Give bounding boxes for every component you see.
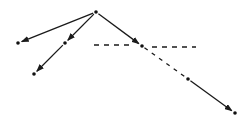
edge-root-to-right [98,14,138,44]
edge-right-to-right-child [144,48,184,77]
node-mid-child [32,72,36,76]
edges-group [22,13,232,111]
node-mid [63,41,67,45]
node-end [233,111,237,115]
dashed-lines-group [94,45,196,47]
edge-mid-to-mid-child [37,45,63,71]
nodes-group [16,10,237,115]
edge-root-to-left [22,13,93,41]
node-right [140,44,144,48]
edge-right-child-to-end [190,81,231,111]
node-left [16,41,20,45]
node-right-child [186,77,190,81]
node-root [94,10,98,14]
tree-diagram [0,0,252,122]
